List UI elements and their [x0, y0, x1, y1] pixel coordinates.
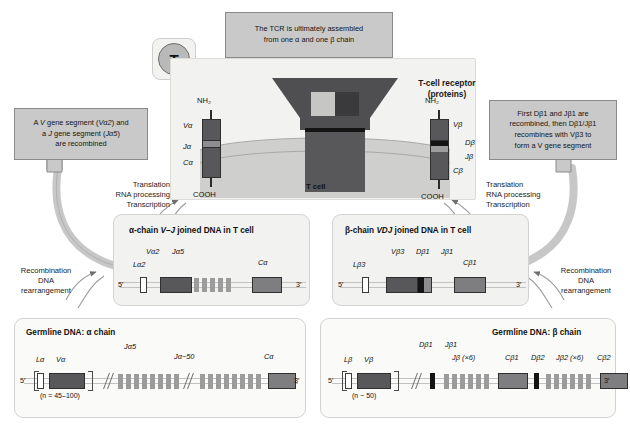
beta-c-segment: [430, 152, 449, 180]
beta-joined-C-box: [454, 277, 486, 293]
alpha-germline-J-box: [150, 374, 155, 389]
beta-germline-J-box: [484, 374, 489, 389]
beta-germline-C1-box: [498, 373, 528, 389]
alpha-rna-label: RNA processing: [116, 190, 170, 199]
beta-joined-J-box: [424, 277, 432, 293]
alpha-germline-J-box: [240, 374, 245, 389]
alpha-germline-J-box: [224, 374, 229, 389]
beta-rearrangement-label: rearrangement: [561, 286, 611, 295]
alpha-c-label: Cα: [183, 158, 193, 167]
alpha-joined-J-box-1: [194, 278, 199, 292]
alpha-germline-V-label: Vα: [56, 355, 65, 364]
beta-germline-3prime: 3′: [604, 376, 609, 385]
beta-germline-Jx6-label: Jβ (×6): [452, 353, 475, 362]
beta-joined-L-box: [362, 277, 369, 293]
alpha-germline-J-box: [208, 374, 213, 389]
alpha-joined-J-box-4: [218, 278, 223, 292]
beta-nh2-label: NH₂: [425, 96, 439, 105]
alpha-j-segment: [202, 141, 221, 148]
beta-joined-J-label: Jβ1: [441, 247, 453, 256]
beta-joined-V-box: [386, 277, 418, 293]
alpha-germline-C-box: [268, 373, 296, 389]
alpha-germline-J-box: [232, 374, 237, 389]
alpha-germline-3prime: 3′: [294, 376, 299, 385]
beta-joined-title-b: joined DNA in T cell: [392, 226, 471, 235]
alpha-germline-V-box: [49, 373, 85, 389]
callout-left-jseg: Jα5: [105, 129, 117, 138]
alpha-joined-title-b: joined DNA in T cell: [175, 226, 254, 235]
callout-left-l1b: gene segment (: [45, 118, 98, 127]
alpha-germline-L-label: Lα: [36, 355, 44, 364]
beta-rna-label: RNA processing: [486, 190, 540, 199]
alpha-joined-V-label: Vα2: [146, 247, 159, 256]
alpha-germline-J-box: [248, 374, 253, 389]
callout-left-l2c: ): [117, 129, 119, 138]
alpha-recombination-labels: Recombination DNA rearrangement: [8, 266, 84, 296]
alpha-joined-title-i: V–J: [160, 226, 175, 235]
alpha-joined-title-a: α-chain: [129, 226, 160, 235]
alpha-germline-J-box: [200, 374, 205, 389]
beta-transcription-label: Transcription: [486, 200, 530, 209]
alpha-transcription-label: Transcription: [126, 200, 170, 209]
alpha-germline-J-box: [174, 374, 179, 389]
beta-germline-title-a: Germline DNA:: [492, 328, 553, 337]
beta-germline-n-label: (n ~ 50): [352, 392, 376, 399]
tcr-title-line1: T-cell receptor: [418, 78, 475, 88]
beta-germline-bracket-right: [394, 371, 399, 391]
callout-top: The TCR is ultimately assembled from one…: [225, 12, 393, 58]
beta-germline-C2-label: Cβ2: [597, 353, 611, 362]
beta-joined-dna-title: β-chain VDJ joined DNA in T cell: [345, 226, 471, 235]
beta-joined-3prime: 3′: [516, 280, 521, 289]
alpha-germline-J-box: [256, 374, 261, 389]
beta-germline-J2-box: [562, 374, 567, 389]
alpha-germline-J-box: [216, 374, 221, 389]
beta-germline-5prime: 5′: [328, 376, 333, 385]
callout-right-l4: form a V gene segment: [515, 141, 592, 150]
beta-germline-L-box: [345, 373, 352, 389]
callout-right-l2: recombined, then Dβ1/Jβ1: [510, 119, 597, 128]
alpha-germline-J-box: [118, 374, 123, 389]
alpha-protein-chain: [200, 110, 226, 192]
alpha-joined-J-box-2: [202, 278, 207, 292]
beta-germline-J1-label: Jβ1: [445, 340, 457, 349]
beta-joined-V-label: Vβ3: [391, 247, 404, 256]
beta-germline-D1-label: Dβ1: [419, 340, 433, 349]
alpha-joined-J-box-3: [210, 278, 215, 292]
beta-dna-label: DNA: [578, 276, 594, 285]
callout-left-l1c: ) and: [112, 118, 129, 127]
alpha-germline-J-box: [158, 374, 163, 389]
beta-cooh-label: COOH: [421, 192, 444, 201]
alpha-cooh-stem: [210, 178, 212, 187]
beta-germline-J2-box: [578, 374, 583, 389]
beta-germline-J2-box: [546, 374, 551, 389]
beta-v-segment: [430, 119, 449, 141]
beta-j-label: Jβ: [465, 152, 473, 161]
beta-germline-D2-box: [534, 373, 539, 389]
callout-left: A V gene segment (Vα2) and a J gene segm…: [14, 108, 148, 160]
alpha-recombination-label: Recombination: [21, 266, 72, 275]
callout-left-l3: are recombined: [55, 139, 106, 148]
beta-process-labels: Translation RNA processing Transcription: [486, 180, 586, 210]
beta-germline-C1-label: Cβ1: [505, 353, 519, 362]
alpha-germline-title-a: Germline DNA:: [26, 328, 87, 337]
beta-joined-L-label: Lβ3: [353, 260, 365, 269]
alpha-germline-dna-track: [22, 371, 300, 391]
alpha-germline-J5-label: Jα5: [124, 342, 136, 351]
beta-joined-D-label: Dβ1: [416, 247, 430, 256]
callout-right-l1: First Dβ1 and Jβ1 are: [517, 109, 588, 118]
callout-left-l2b: gene segment (: [52, 129, 105, 138]
alpha-joined-L-box: [140, 277, 147, 293]
beta-germline-J2-box: [570, 374, 575, 389]
alpha-germline-J50-label: Jα~50: [174, 352, 194, 361]
alpha-germline-title: Germline DNA: α chain: [26, 328, 115, 337]
beta-germline-J2-box: [554, 374, 559, 389]
beta-recombination-label: Recombination: [561, 266, 612, 275]
alpha-germline-C-label: Cα: [264, 352, 274, 361]
beta-germline-J-box: [452, 374, 457, 389]
alpha-germline-J-box: [166, 374, 171, 389]
alpha-germline-title-b: α chain: [87, 328, 116, 337]
beta-nh2-stem: [438, 110, 440, 119]
alpha-germline-L-box: [37, 373, 44, 389]
beta-germline-J-box: [476, 374, 481, 389]
callout-left-vseg: Vα2: [98, 118, 111, 127]
